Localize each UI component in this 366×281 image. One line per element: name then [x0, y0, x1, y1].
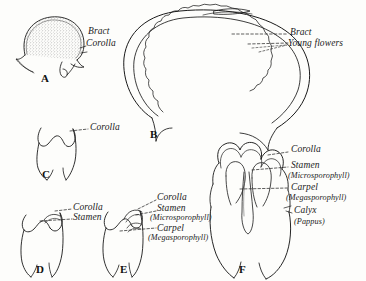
label-e-corolla: Corolla	[157, 193, 187, 203]
panel-letter-f: F	[239, 263, 246, 275]
label-f-carpel: Carpel	[291, 183, 318, 193]
label-c-corolla: Corolla	[90, 123, 120, 133]
label-a-corolla: Corolla	[86, 39, 116, 49]
panel-f-drawing	[210, 142, 292, 279]
label-a-bract: Bract	[88, 27, 110, 37]
label-b-bract: Bract	[290, 28, 312, 38]
panel-letter-e: E	[120, 263, 127, 275]
label-f-microsporophyll: (Microsporophyll)	[288, 172, 350, 181]
label-f-pappus: (Pappus)	[294, 218, 325, 227]
label-e-megasporophyll: (Megasporophyll)	[148, 234, 208, 243]
panel-letter-d: D	[36, 263, 44, 275]
label-b-young-flowers: Young flowers	[288, 39, 343, 49]
label-f-calyx: Calyx	[294, 206, 317, 216]
label-f-corolla: Corolla	[291, 145, 321, 155]
panel-d-drawing	[21, 209, 72, 277]
label-f-stamen: Stamen	[291, 161, 320, 171]
panel-letter-c: C	[42, 168, 50, 180]
label-d-stamen: Stamen	[73, 213, 102, 223]
panel-a-drawing	[16, 17, 87, 77]
panel-letter-a: A	[41, 72, 49, 84]
panel-letter-b: B	[150, 128, 157, 140]
label-e-microsporophyll: (Microsporophyll)	[150, 214, 212, 223]
label-f-megasporophyll: (Megasporophyll)	[286, 194, 346, 203]
botanical-figure: Bract Corolla Bract Young flowers Coroll…	[0, 0, 366, 281]
